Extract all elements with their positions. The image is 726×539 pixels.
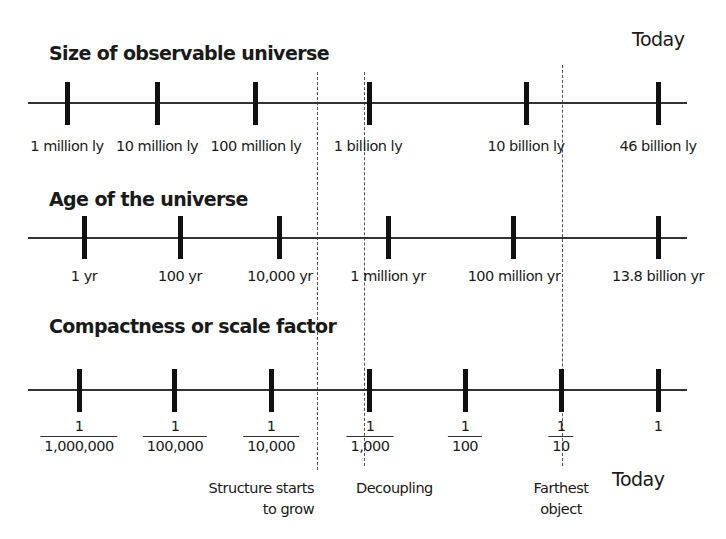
age-tick (386, 216, 391, 259)
size-tick-label: 10 billion ly (487, 138, 564, 154)
structure-annotation-line2: to grow (207, 499, 314, 520)
fraction-numerator: 1 (40, 418, 117, 436)
farthest-annotation-line2: object (532, 499, 590, 520)
structure-grows-annotation: Structure starts to grow (207, 478, 314, 520)
age-tick (82, 216, 87, 259)
size-tick (524, 82, 529, 125)
scale-fraction: 1 10,000 (243, 418, 299, 455)
scale-row-title: Compactness or scale factor (49, 315, 336, 337)
scale-tick (172, 369, 177, 412)
scale-fraction: 1 100,000 (143, 418, 207, 455)
scale-fraction: 1 1,000 (346, 418, 393, 455)
size-tick (367, 82, 372, 125)
scale-tick (559, 369, 564, 412)
scale-tick (367, 369, 372, 412)
age-tick-label: 100 million yr (468, 268, 561, 284)
age-tick-label: 100 yr (158, 268, 202, 284)
scale-fraction: 1 1,000,000 (40, 418, 117, 455)
fraction-denominator: 100,000 (143, 436, 207, 455)
fraction-denominator: 1,000 (346, 436, 393, 455)
age-row-title: Age of the universe (49, 188, 248, 210)
age-tick (656, 216, 661, 259)
fraction-denominator: 100 (448, 436, 482, 455)
farthest-annotation-line1: Farthest (532, 478, 590, 499)
age-tick (511, 216, 516, 259)
scale-axis (28, 389, 687, 391)
fraction-denominator: 1,000,000 (40, 436, 117, 455)
structure-annotation-line1: Structure starts (207, 478, 314, 499)
age-axis (28, 237, 687, 239)
decoupling-annotation: Decoupling (356, 478, 433, 499)
age-tick-label: 13.8 billion yr (612, 268, 704, 284)
scale-fraction: 1 10 (548, 418, 573, 455)
size-tick (155, 82, 160, 125)
size-tick-label: 1 billion ly (334, 138, 402, 154)
fraction-numerator: 1 (448, 418, 482, 436)
scale-tick (269, 369, 274, 412)
today-label-top: Today (632, 28, 684, 50)
age-tick-label: 1 million yr (350, 268, 425, 284)
today-label-bottom: Today (612, 468, 664, 490)
age-tick (178, 216, 183, 259)
scale-tick (656, 369, 661, 412)
fraction-denominator: 10 (548, 436, 573, 455)
scale-tick (463, 369, 468, 412)
size-tick-label: 10 million ly (116, 138, 198, 154)
age-tick (277, 216, 282, 259)
age-tick-label: 10,000 yr (247, 268, 312, 284)
size-tick (65, 82, 70, 125)
age-tick-label: 1 yr (71, 268, 97, 284)
fraction-numerator: 1 (346, 418, 393, 436)
scale-tick (77, 369, 82, 412)
scale-fraction: 1 100 (448, 418, 482, 455)
fraction-numerator: 1 (243, 418, 299, 436)
size-tick (656, 82, 661, 125)
size-row-title: Size of observable universe (49, 42, 329, 64)
scale-value-one: 1 (654, 418, 663, 434)
fraction-numerator: 1 (143, 418, 207, 436)
farthest-object-annotation: Farthest object (532, 478, 590, 520)
size-tick-label: 46 billion ly (619, 138, 696, 154)
size-tick (253, 82, 258, 125)
size-tick-label: 100 million ly (211, 138, 302, 154)
structure-marker-line (317, 72, 318, 470)
size-axis (28, 102, 687, 104)
fraction-numerator: 1 (548, 418, 573, 436)
fraction-denominator: 10,000 (243, 436, 299, 455)
size-tick-label: 1 million ly (30, 138, 103, 154)
